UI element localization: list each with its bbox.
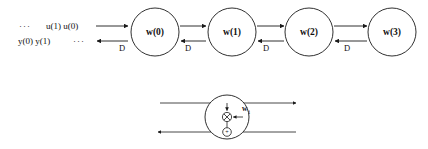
delay-label-3: D	[344, 43, 350, 53]
node-w2-label: w(2)	[300, 27, 318, 38]
node-w1-label: w(1)	[223, 27, 241, 38]
diagram-svg: w(0) w(1) w(2) w(3) D D D D ··· u(1) u(0…	[0, 0, 428, 149]
input-stream-label: u(1) u(0)	[46, 21, 78, 31]
edge-w2-w3	[334, 26, 367, 41]
edge-w1-w2	[257, 26, 284, 41]
input-leading-dots: ···	[19, 21, 31, 31]
delay-label-1: D	[185, 43, 191, 53]
node-w1[interactable]: w(1)	[208, 8, 256, 56]
delay-label-2: D	[263, 43, 269, 53]
output-stream-label: y(0) y(1)	[18, 36, 50, 46]
output-trailing-dots: ···	[73, 36, 85, 46]
node-w3[interactable]: w(3)	[368, 8, 416, 56]
figure-canvas: w(0) w(1) w(2) w(3) D D D D ··· u(1) u(0…	[0, 0, 428, 149]
adder-node: +	[223, 128, 232, 137]
weight-label-subscript: i	[249, 109, 251, 115]
edge-w0-w1	[180, 26, 206, 41]
node-w2[interactable]: w(2)	[285, 8, 333, 56]
multiplier-node	[222, 112, 231, 121]
node-w0[interactable]: w(0)	[131, 8, 179, 56]
weight-label-base: w	[242, 104, 248, 113]
node-w3-label: w(3)	[383, 27, 401, 38]
delay-label-0: D	[119, 43, 125, 53]
node-w0-label: w(0)	[146, 27, 164, 38]
